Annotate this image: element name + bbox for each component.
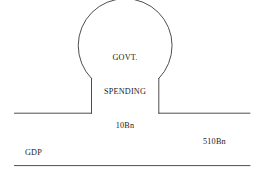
govt-spending-label-line2: SPENDING	[79, 86, 171, 97]
total-gdp-label: 510Bn	[203, 136, 226, 147]
diagram-canvas: GOVT. SPENDING 10Bn GDP 500Bn 510Bn	[0, 0, 261, 177]
gdp-label-line1: GDP	[25, 147, 48, 159]
govt-spending-label-line3: 10Bn	[79, 120, 171, 131]
govt-spending-label-line1: GOVT.	[79, 52, 171, 63]
gdp-label: GDP 500Bn	[25, 124, 48, 177]
govt-spending-label: GOVT. SPENDING 10Bn	[79, 30, 171, 153]
